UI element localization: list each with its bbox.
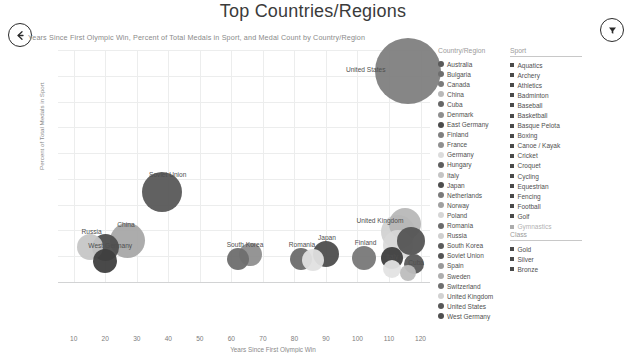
country-legend-swatch-icon [438,112,444,118]
country-legend-item-label: Denmark [447,111,473,118]
bubble-label: China [117,221,134,228]
bubble-point[interactable] [383,260,401,278]
sport-legend-item[interactable]: Athletics [510,80,582,90]
country-region-legend: Country/Region AustraliaBulgariaCanadaCh… [438,47,504,321]
sport-legend-item[interactable]: Football [510,201,582,211]
bubble-point[interactable] [227,248,249,270]
country-legend-swatch-icon [438,253,444,259]
country-legend-swatch-icon [438,61,444,67]
sport-legend-item[interactable]: Canoe / Kayak [510,141,582,151]
country-legend-item-label: Japan [447,182,465,189]
bubble-label: South Korea [227,241,264,248]
filter-button[interactable] [600,18,624,42]
class-legend-item[interactable]: Silver [510,254,582,264]
x-axis-tick: 80 [279,335,309,342]
country-legend-swatch-icon [438,71,444,77]
bubble-point[interactable] [400,265,416,281]
sport-legend-item[interactable]: Archery [510,70,582,80]
country-legend-item[interactable]: West Germany [438,311,504,321]
country-legend-item[interactable]: Soviet Union [438,251,504,261]
sport-legend-item[interactable]: Cycling [510,171,582,181]
country-legend-title: Country/Region [438,47,504,56]
sport-legend-item[interactable]: Basque Pelota [510,121,582,131]
x-axis-tick: 40 [153,335,183,342]
sport-legend-item-label: Canoe / Kayak [518,142,561,149]
country-legend-item[interactable]: Finland [438,130,504,140]
bubble-point[interactable] [142,172,182,212]
sport-legend-item[interactable]: Croquet [510,161,582,171]
country-legend-item[interactable]: Norway [438,200,504,210]
country-legend-item[interactable]: China [438,89,504,99]
country-legend-item[interactable]: Australia [438,59,504,69]
class-legend-item[interactable]: Gold [510,244,582,254]
country-legend-item-label: France [447,141,467,148]
sport-legend-item[interactable]: Badminton [510,90,582,100]
sport-legend-swatch-icon [510,93,514,97]
country-legend-swatch-icon [438,162,444,168]
country-legend-item[interactable]: Poland [438,210,504,220]
country-legend-item[interactable]: Italy [438,170,504,180]
sport-legend-item[interactable]: Cricket [510,151,582,161]
sport-legend-swatch-icon [510,114,514,118]
country-legend-item[interactable]: Russia [438,231,504,241]
country-legend-item[interactable]: Canada [438,79,504,89]
country-legend-item[interactable]: Denmark [438,109,504,119]
country-legend-swatch-icon [438,263,444,269]
x-axis-tick: 60 [216,335,246,342]
sport-legend-item[interactable]: Basketball [510,110,582,120]
country-legend-item-label: Switzerland [447,283,481,290]
bubble-point[interactable] [93,249,117,273]
sport-legend-swatch-icon [510,214,514,218]
gridline-horizontal [58,50,430,51]
country-legend-item[interactable]: Spain [438,261,504,271]
country-legend-swatch-icon [438,233,444,239]
bubble-label: Cuba [408,259,424,266]
sport-legend-item[interactable]: Golf [510,211,582,221]
country-legend-item[interactable]: United States [438,301,504,311]
class-legend-swatch-icon [510,247,514,251]
country-legend-swatch-icon [438,202,444,208]
country-legend-item-label: East Germany [447,121,489,128]
sport-legend-item[interactable]: Baseball [510,100,582,110]
sport-legend-item-label: Basque Pelota [518,122,560,129]
sport-legend-swatch-icon [510,103,514,107]
country-legend-item[interactable]: Switzerland [438,281,504,291]
country-legend-item[interactable]: Cuba [438,99,504,109]
bubble-point[interactable] [352,246,376,270]
sport-legend-item[interactable]: Gymnastics [510,222,582,232]
country-legend-swatch-icon [438,212,444,218]
sport-legend-swatch-icon [510,184,514,188]
sport-legend-item-label: Cricket [518,152,538,159]
arrow-left-icon [15,30,26,41]
sport-legend-item[interactable]: Fencing [510,191,582,201]
gridline-horizontal [58,76,430,77]
country-legend-item[interactable]: United Kingdom [438,291,504,301]
gridline-vertical [200,50,201,282]
sport-legend-item[interactable]: Aquatics [510,60,582,70]
country-legend-item[interactable]: Bulgaria [438,69,504,79]
sport-legend-item[interactable]: Boxing [510,131,582,141]
country-legend-item[interactable]: Japan [438,180,504,190]
country-legend-item[interactable]: Germany [438,150,504,160]
sport-legend-item-label: Baseball [518,102,543,109]
scatter-plot: 0.00 %2.00 %4.00 %6.00 %8.00 %10.00 %12.… [58,50,430,282]
country-legend-item-label: Cuba [447,101,463,108]
bubble-label: West Germany [88,242,132,249]
sport-legend-item[interactable]: Equestrian [510,181,582,191]
country-legend-item[interactable]: Romania [438,221,504,231]
gridline-horizontal [58,205,430,206]
class-legend-item[interactable]: Bronze [510,264,582,274]
country-legend-swatch-icon [438,273,444,279]
country-legend-item[interactable]: Netherlands [438,190,504,200]
bubble-point[interactable] [302,249,324,271]
country-legend-item[interactable]: Hungary [438,160,504,170]
country-legend-item[interactable]: Sweden [438,271,504,281]
country-legend-item[interactable]: South Korea [438,241,504,251]
sport-legend-swatch-icon [510,124,514,128]
bubble-point[interactable] [397,227,425,255]
country-legend-item-label: Netherlands [447,192,482,199]
x-axis-label: Years Since First Olympic Win [58,346,488,353]
country-legend-item[interactable]: East Germany [438,120,504,130]
sport-legend-swatch-icon [510,83,514,87]
country-legend-item[interactable]: France [438,140,504,150]
